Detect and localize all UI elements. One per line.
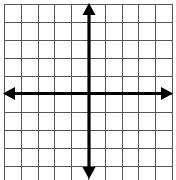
y-axis xyxy=(83,3,96,179)
y-axis-down-arrow-icon xyxy=(83,167,96,179)
coordinate-grid xyxy=(0,0,176,180)
x-axis-right-arrow-icon xyxy=(161,87,173,100)
